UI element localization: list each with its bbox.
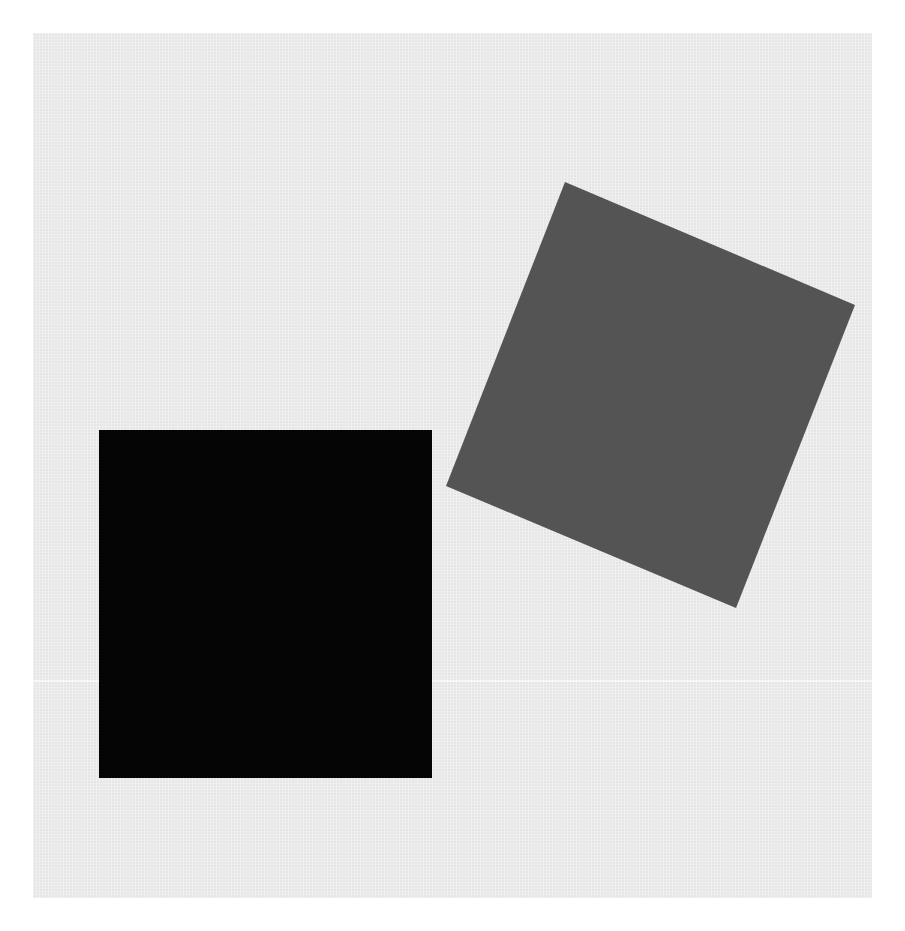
shapes-layer [0,0,905,931]
rotated-gray-square [446,182,855,608]
image-canvas: Two squares on a light gray textured bac… [0,0,905,931]
black-square [99,430,432,778]
